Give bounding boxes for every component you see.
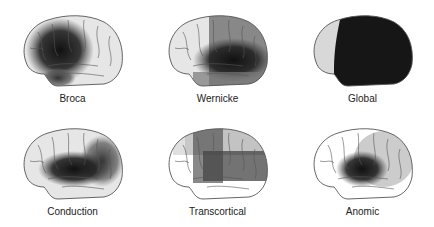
panel-anomic: Anomic [290,113,434,226]
brain-diagram-wernicke [163,12,271,92]
panel-wernicke: Wernicke [145,0,290,113]
label-anomic: Anomic [290,206,434,217]
label-global: Global [290,93,434,104]
panel-global: Global [290,0,434,113]
panel-transcortical: Transcortical [145,113,290,226]
label-wernicke: Wernicke [145,93,290,104]
brain-diagram-transcortical [163,125,271,205]
panel-conduction: Conduction [0,113,145,226]
label-broca: Broca [0,93,145,104]
brain-diagram-anomic [308,125,416,205]
brain-diagram-conduction [18,125,126,205]
panel-broca: Broca [0,0,145,113]
brain-diagram-global [308,12,416,92]
label-conduction: Conduction [0,206,145,217]
label-transcortical: Transcortical [145,206,290,217]
brain-diagram-broca [18,12,126,92]
